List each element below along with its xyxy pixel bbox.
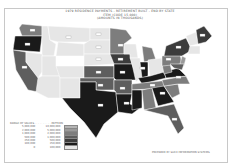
state-mt[interactable] bbox=[48, 26, 90, 42]
state-ms[interactable] bbox=[132, 90, 142, 110]
legend-swatch bbox=[64, 145, 78, 150]
state-wy[interactable] bbox=[56, 42, 84, 56]
state-az[interactable] bbox=[36, 76, 60, 98]
state-nm[interactable] bbox=[60, 78, 80, 98]
map-legend: RANGE OF VALUES . . . . . . . . . . PATT… bbox=[10, 122, 78, 149]
state-ma-ct-ri[interactable] bbox=[188, 46, 200, 54]
legend-high: 100,000 bbox=[35, 146, 60, 149]
legend-row: 0 100,000 bbox=[10, 146, 78, 149]
state-co[interactable] bbox=[56, 66, 84, 78]
map-credit: PREPARED BY SLICE INFORMATION SYSTEMS bbox=[152, 151, 210, 154]
legend-low: 0 bbox=[10, 146, 35, 149]
